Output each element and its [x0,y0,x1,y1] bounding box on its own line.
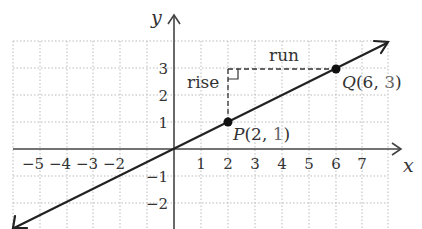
svg-text:−3: −3 [76,155,98,173]
svg-text:2: 2 [223,155,233,173]
x-axis-label: x [403,154,414,176]
svg-text:6: 6 [331,155,341,173]
y-axis-label: y [150,6,162,28]
point-p-label: P(2, 1) [232,124,290,144]
svg-text:5: 5 [304,155,314,173]
svg-text:3: 3 [158,60,168,78]
svg-text:−2: −2 [103,155,125,173]
right-angle-marker [228,69,238,79]
point-q [332,65,341,74]
point-p [224,118,233,127]
y-tick-labels: 3 2 1 −1 −2 [146,60,168,213]
point-q-label: Q(6, 3) [342,72,402,92]
rise-label: rise [187,72,219,92]
svg-text:2: 2 [158,87,168,105]
svg-text:3: 3 [250,155,260,173]
run-label: run [269,45,299,65]
svg-text:−5: −5 [22,155,44,173]
svg-text:4: 4 [277,155,287,173]
svg-text:1: 1 [158,114,168,132]
svg-text:1: 1 [196,155,206,173]
svg-text:−4: −4 [49,155,71,173]
x-tick-labels: −5 −4 −3 −2 1 2 3 4 5 6 7 [22,155,367,173]
slope-graph: y x −5 −4 −3 −2 1 2 3 4 5 6 7 3 2 1 −1 −… [0,0,422,229]
svg-text:−2: −2 [146,195,168,213]
svg-text:7: 7 [357,155,367,173]
svg-text:−1: −1 [146,168,168,186]
